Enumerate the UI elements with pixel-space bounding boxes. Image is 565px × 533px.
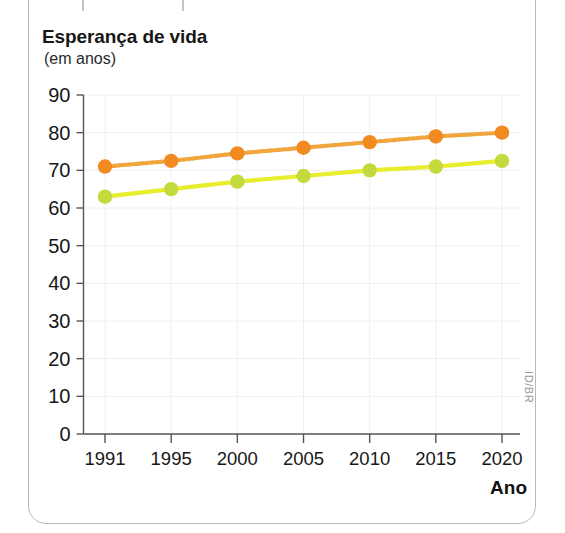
data-point-marker xyxy=(362,163,376,177)
y-tick-label: 40 xyxy=(48,272,70,294)
x-tick-label: 2005 xyxy=(283,448,324,469)
y-tick-label: 90 xyxy=(48,84,70,106)
x-tick-label: 2015 xyxy=(415,448,456,469)
x-axis-title: Ano xyxy=(490,477,527,499)
y-tick-label: 10 xyxy=(48,385,70,407)
data-point-marker xyxy=(98,190,112,204)
data-point-marker xyxy=(429,159,443,173)
y-tick-label: 70 xyxy=(48,159,70,181)
y-tick-label: 0 xyxy=(59,423,70,445)
y-tick-label: 50 xyxy=(48,235,70,257)
data-point-marker xyxy=(164,154,178,168)
data-point-marker xyxy=(495,125,509,139)
y-tick-label: 60 xyxy=(48,197,70,219)
x-tick-label: 2000 xyxy=(217,448,258,469)
line-chart-svg: 0102030405060708090 19911995200020052010… xyxy=(0,0,565,533)
x-tick-label: 2010 xyxy=(349,448,390,469)
data-point-marker xyxy=(495,154,509,168)
y-tick-label: 20 xyxy=(48,348,70,370)
data-point-marker xyxy=(230,146,244,160)
data-point-marker xyxy=(98,159,112,173)
data-point-marker xyxy=(296,141,310,155)
chart-plot-area: 0102030405060708090 19911995200020052010… xyxy=(0,0,565,533)
watermark-label: ID/BR xyxy=(523,371,535,403)
data-point-marker xyxy=(429,129,443,143)
data-point-marker xyxy=(230,174,244,188)
x-tick-label: 1995 xyxy=(151,448,192,469)
data-point-marker xyxy=(164,182,178,196)
x-tick-label: 1991 xyxy=(84,448,125,469)
data-point-marker xyxy=(362,135,376,149)
x-tick-label: 2020 xyxy=(481,448,522,469)
y-axis-ticks: 0102030405060708090 xyxy=(48,84,83,445)
y-tick-label: 80 xyxy=(48,122,70,144)
x-axis-ticks: 1991199520002005201020152020 xyxy=(84,434,522,469)
data-point-marker xyxy=(296,169,310,183)
y-tick-label: 30 xyxy=(48,310,70,332)
